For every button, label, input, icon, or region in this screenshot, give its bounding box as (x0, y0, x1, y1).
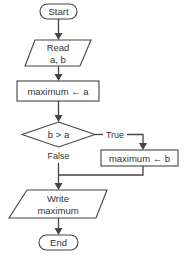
end-label: End (50, 237, 67, 248)
start-label: Start (48, 6, 68, 17)
connector-true-merge (59, 166, 144, 175)
read-label-line1: Read (47, 42, 70, 53)
connector-true-b (127, 135, 143, 145)
false-label: False (47, 151, 69, 161)
end-terminal: End (39, 235, 78, 250)
arrowhead-icon (55, 74, 63, 81)
true-label: True (106, 130, 124, 140)
write-output-shape: Write maximum (9, 190, 107, 218)
read-label-line2: a, b (50, 54, 66, 65)
assign-a-label: maximum ← a (27, 86, 89, 97)
flowchart: Start Read a, b maximum ← a b > a True m… (0, 0, 196, 262)
decision-label: b > a (48, 129, 70, 140)
write-label-line1: Write (47, 193, 69, 204)
read-input-shape: Read a, b (25, 40, 91, 66)
assign-b-label: maximum ← b (109, 153, 170, 164)
start-terminal: Start (40, 4, 77, 19)
arrowhead-icon (55, 115, 63, 122)
write-label-line2: maximum (37, 205, 78, 216)
arrowhead-icon (139, 143, 147, 150)
assign-a-process: maximum ← a (17, 81, 99, 101)
assign-b-process: maximum ← b (101, 150, 178, 166)
decision-diamond: b > a (22, 122, 95, 147)
arrowhead-icon (55, 33, 63, 40)
arrowhead-icon (55, 183, 63, 190)
arrowhead-icon (55, 228, 63, 235)
